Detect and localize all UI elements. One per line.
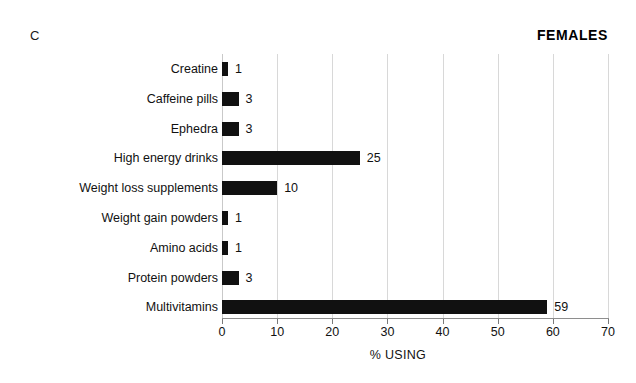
category-label: Weight gain powders — [0, 206, 218, 230]
bar-value-label: 25 — [367, 146, 381, 170]
x-tick-label-60: 60 — [533, 325, 573, 339]
bar-value-label: 3 — [246, 87, 253, 111]
x-tick-label-30: 30 — [367, 325, 407, 339]
x-tick-label-70: 70 — [588, 325, 628, 339]
bar — [222, 92, 239, 106]
x-tick-label-10: 10 — [257, 325, 297, 339]
bar-row: Protein powders3 — [0, 266, 636, 290]
x-tick-20 — [332, 319, 333, 324]
bar-row: High energy drinks25 — [0, 146, 636, 170]
category-label: High energy drinks — [0, 146, 218, 170]
bar — [222, 62, 228, 76]
category-label: Multivitamins — [0, 295, 218, 319]
x-tick-label-40: 40 — [423, 325, 463, 339]
category-label: Protein powders — [0, 266, 218, 290]
category-label: Caffeine pills — [0, 87, 218, 111]
bar-value-label: 10 — [284, 176, 298, 200]
category-label: Weight loss supplements — [0, 176, 218, 200]
bar-value-label: 3 — [246, 266, 253, 290]
bar-row: Weight loss supplements10 — [0, 176, 636, 200]
x-tick-40 — [443, 319, 444, 324]
bar — [222, 181, 277, 195]
bar-row: Weight gain powders1 — [0, 206, 636, 230]
bar-row: Multivitamins59 — [0, 295, 636, 319]
x-tick-label-50: 50 — [478, 325, 518, 339]
bar-row: Caffeine pills3 — [0, 87, 636, 111]
bar-value-label: 3 — [246, 117, 253, 141]
bar — [222, 271, 239, 285]
bar — [222, 151, 360, 165]
category-label: Creatine — [0, 57, 218, 81]
bar — [222, 211, 228, 225]
category-label: Ephedra — [0, 117, 218, 141]
x-tick-label-20: 20 — [312, 325, 352, 339]
bar-value-label: 1 — [235, 206, 242, 230]
x-tick-10 — [277, 319, 278, 324]
bar-value-label: 1 — [235, 57, 242, 81]
chart-figure: C FEMALES Creatine1Caffeine pills3Ephedr… — [0, 0, 636, 383]
bar-row: Creatine1 — [0, 57, 636, 81]
x-axis-title: % USING — [0, 348, 636, 362]
x-tick-label-0: 0 — [202, 325, 242, 339]
bar — [222, 300, 547, 314]
bar — [222, 241, 228, 255]
x-tick-50 — [498, 319, 499, 324]
x-tick-60 — [553, 319, 554, 324]
x-tick-70 — [608, 319, 609, 324]
bar — [222, 122, 239, 136]
x-tick-0 — [222, 319, 223, 324]
bar-value-label: 1 — [235, 236, 242, 260]
x-tick-30 — [387, 319, 388, 324]
bar-value-label: 59 — [554, 295, 568, 319]
plot-area: Creatine1Caffeine pills3Ephedra3High ene… — [0, 0, 636, 383]
category-label: Amino acids — [0, 236, 218, 260]
bar-row: Ephedra3 — [0, 117, 636, 141]
bar-row: Amino acids1 — [0, 236, 636, 260]
